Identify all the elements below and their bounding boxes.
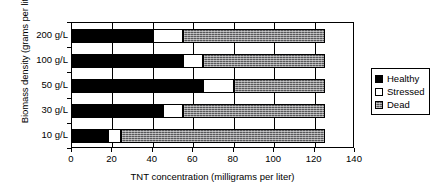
x-axis-tick (354, 148, 355, 152)
x-axis-tick (111, 148, 112, 152)
legend-label: Dead (387, 100, 410, 110)
y-axis-tick-label: 200 g/L (18, 30, 68, 40)
chart-container: Biomass density (grams per liter) 200 g/… (0, 0, 448, 196)
x-axis-tick-label: 0 (56, 153, 86, 164)
bar-segment-dead (183, 29, 325, 43)
y-axis-tick (67, 47, 71, 48)
bar-segment-dead (183, 104, 325, 118)
legend-item: Stressed (375, 85, 425, 98)
y-axis-tick (67, 72, 71, 73)
x-axis-tick-label: 80 (218, 153, 248, 164)
bar-row (72, 104, 355, 118)
legend-label: Healthy (387, 74, 419, 84)
x-axis-tick (152, 148, 153, 152)
bar-segment-healthy (72, 79, 203, 93)
legend-swatch-healthy (375, 75, 383, 83)
y-axis-tick-label: 30 g/L (18, 105, 68, 115)
bar-segment-stressed (183, 54, 203, 68)
bar-row (72, 29, 355, 43)
y-axis-category-labels: 200 g/L100 g/L50 g/L30 g/L10 g/L (18, 22, 68, 148)
bar-row (72, 129, 355, 143)
y-axis-tick-label: 100 g/L (18, 55, 68, 65)
x-axis-tick (233, 148, 234, 152)
x-axis-tick-label: 100 (258, 153, 288, 164)
y-axis-tick (67, 123, 71, 124)
y-axis-tick (67, 98, 71, 99)
x-axis-tick (314, 148, 315, 152)
x-axis-tick-label: 60 (177, 153, 207, 164)
bar-segment-dead (121, 129, 325, 143)
bar-segment-healthy (72, 129, 108, 143)
x-axis-title: TNT concentration (milligrams per liter) (71, 171, 354, 182)
bar-segment-healthy (72, 29, 153, 43)
x-axis-tick (71, 148, 72, 152)
legend-item: Healthy (375, 72, 425, 85)
legend-swatch-dead (375, 101, 383, 109)
bar-segment-stressed (163, 104, 183, 118)
bar-segment-healthy (72, 54, 183, 68)
legend-label: Stressed (387, 87, 425, 97)
y-axis-tick-label: 50 g/L (18, 80, 68, 90)
bar-row (72, 54, 355, 68)
bar-segment-stressed (203, 79, 233, 93)
y-axis-tick (67, 22, 71, 23)
chart-legend: HealthyStressedDead (371, 68, 430, 115)
bar-segment-stressed (153, 29, 183, 43)
x-axis-tick-label: 120 (299, 153, 329, 164)
plot-area (71, 22, 354, 148)
bar-row (72, 79, 355, 93)
x-axis-tick-label: 140 (339, 153, 369, 164)
bar-segment-healthy (72, 104, 163, 118)
y-axis-tick-label: 10 g/L (18, 130, 68, 140)
legend-swatch-stressed (375, 88, 383, 96)
x-axis-tick-label: 20 (96, 153, 126, 164)
x-axis-tick (273, 148, 274, 152)
bar-segment-dead (203, 54, 324, 68)
x-axis-tick-label: 40 (137, 153, 167, 164)
legend-item: Dead (375, 98, 425, 111)
bar-segment-stressed (108, 129, 120, 143)
bar-segment-dead (234, 79, 325, 93)
x-axis-tick (192, 148, 193, 152)
